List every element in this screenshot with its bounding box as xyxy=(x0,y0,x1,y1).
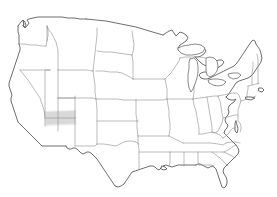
us-map-svg xyxy=(0,0,277,197)
us-outline-map xyxy=(0,0,277,197)
